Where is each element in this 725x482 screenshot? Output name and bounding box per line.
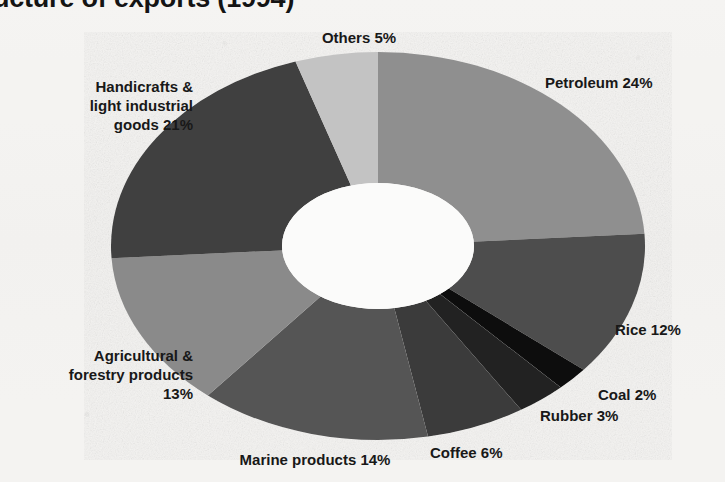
slice-label-handicrafts: Handicrafts & light industrial goods 21% — [7, 77, 193, 134]
slice-label-marine-products: Marine products 14% — [215, 450, 415, 469]
slice-label-rice: Rice 12% — [615, 320, 715, 339]
slice-label-coal: Coal 2% — [598, 385, 713, 404]
slice-label-others: Others 5% — [284, 28, 434, 47]
page-title: Structure of exports (1994) — [0, 0, 294, 13]
slice-label-petroleum: Petroleum 24% — [545, 73, 715, 92]
slice-label-agricultural: Agricultural & forestry products 13% — [7, 346, 193, 403]
slice-label-coffee: Coffee 6% — [430, 443, 565, 462]
chart-title-clipped: Structure of exports (1994) — [0, 0, 725, 13]
slice-label-rubber: Rubber 3% — [540, 406, 713, 425]
donut-hole — [282, 183, 474, 309]
